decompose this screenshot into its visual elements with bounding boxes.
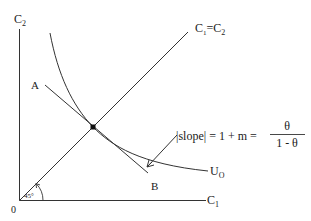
angle-arc <box>36 184 43 201</box>
point-b-label: B <box>151 180 158 192</box>
y-axis-label: C2 <box>14 12 26 28</box>
slope-numerator: θ <box>284 119 290 133</box>
angle-label: 45° <box>24 192 34 200</box>
indifference-curve <box>50 33 208 171</box>
tangency-point <box>91 125 96 130</box>
diagonal-label: C1=C2 <box>195 21 225 37</box>
diagram-canvas: C2 C1 0 45° C1=C2 A B UO |slope| = 1 + m… <box>0 0 311 221</box>
point-a-label: A <box>31 79 39 91</box>
x-axis-label: C1 <box>207 193 219 209</box>
annotation-arrow-line <box>148 135 177 166</box>
diagonal-line <box>20 32 189 201</box>
curve-label: UO <box>210 164 225 180</box>
slope-denominator: 1 - θ <box>276 136 298 150</box>
origin-label: 0 <box>11 204 16 215</box>
slope-annotation: |slope| = 1 + m = <box>176 129 257 143</box>
